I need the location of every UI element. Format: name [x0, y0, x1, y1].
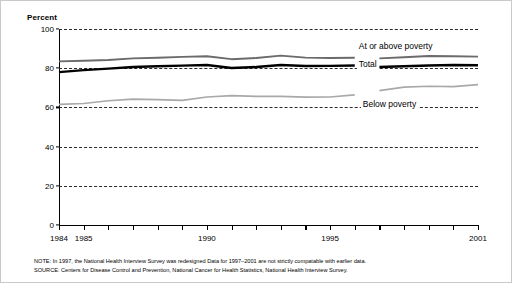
x-tick-label: 1984: [50, 234, 68, 243]
x-tick-mark: [281, 225, 282, 230]
series-line: [59, 65, 355, 72]
footnote-source: SOURCE: Centers for Disease Control and …: [34, 266, 366, 275]
x-tick-mark: [256, 225, 257, 230]
chart-figure: Percent 020406080100 1984198519901995200…: [0, 0, 512, 283]
x-tick-mark: [404, 225, 405, 230]
y-tick-label: 40: [45, 142, 54, 151]
x-tick-mark: [59, 225, 60, 230]
x-axis-line: [59, 225, 479, 226]
x-tick-mark: [478, 225, 479, 230]
x-tick-mark: [232, 225, 233, 230]
series-line: [379, 85, 478, 91]
footnotes: NOTE: In 1997, the National Health Inter…: [34, 257, 366, 275]
y-tick-label: 80: [45, 64, 54, 73]
x-tick-label: 1985: [75, 234, 93, 243]
x-tick-mark: [305, 225, 306, 230]
x-tick-mark: [379, 225, 380, 230]
series-line: [59, 95, 355, 105]
x-tick-mark: [453, 225, 454, 230]
x-tick-label: 1990: [198, 234, 216, 243]
y-axis-title: Percent: [27, 13, 57, 22]
x-tick-mark: [330, 225, 331, 230]
series-label-at-or-above-poverty: At or above poverty: [357, 41, 435, 51]
y-tick-label: 60: [45, 103, 54, 112]
y-tick-label: 100: [41, 25, 54, 34]
series-label-total: Total: [357, 59, 379, 69]
y-tick-label: 0: [50, 221, 54, 230]
series-line: [379, 56, 478, 58]
x-tick-mark: [207, 225, 208, 230]
series-label-below-poverty: Below poverty: [361, 99, 418, 109]
footnote-note: NOTE: In 1997, the National Health Inter…: [34, 257, 366, 266]
x-tick-mark: [133, 225, 134, 230]
x-tick-mark: [429, 225, 430, 230]
x-tick-mark: [108, 225, 109, 230]
x-tick-mark: [182, 225, 183, 230]
x-tick-mark: [158, 225, 159, 230]
x-tick-label: 1995: [321, 234, 339, 243]
plot-area: 020406080100 19841985199019952001 At or …: [59, 29, 478, 225]
series-line: [379, 65, 478, 67]
y-tick-label: 20: [45, 181, 54, 190]
x-tick-mark: [355, 225, 356, 230]
series-line: [59, 56, 355, 62]
x-tick-mark: [84, 225, 85, 230]
x-tick-label: 2001: [469, 234, 487, 243]
series-lines: [59, 29, 478, 225]
